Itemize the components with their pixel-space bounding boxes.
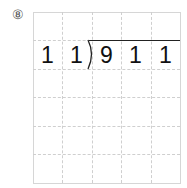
dividend-digit: 1 bbox=[151, 41, 180, 69]
dividend-digit: 1 bbox=[121, 41, 150, 69]
grid-line bbox=[33, 69, 180, 70]
division-bracket-icon bbox=[83, 39, 95, 71]
grid-line bbox=[33, 126, 180, 127]
grid-line bbox=[33, 154, 180, 155]
dividend-digit: 9 bbox=[92, 41, 121, 69]
grid-border bbox=[33, 12, 181, 184]
problem-number: ⑧ bbox=[11, 8, 25, 22]
divisor-digit: 1 bbox=[33, 41, 62, 69]
grid-line bbox=[33, 97, 180, 98]
division-overline bbox=[89, 40, 180, 41]
answer-grid: 1 1 9 1 1 bbox=[33, 12, 180, 183]
